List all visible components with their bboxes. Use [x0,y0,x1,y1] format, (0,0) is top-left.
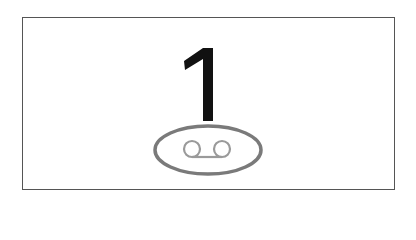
digit-1: 1 [180,46,220,126]
voicemail-icon [150,122,266,178]
